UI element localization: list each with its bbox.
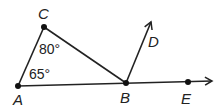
angle-a-label: 65°: [29, 66, 50, 82]
point-c: [41, 24, 47, 30]
point-a: [15, 83, 21, 89]
angle-c-label: 80°: [39, 41, 60, 57]
label-b: B: [120, 89, 130, 106]
geometry-diagram: C A B D E 80° 65°: [0, 0, 224, 111]
label-c: C: [38, 5, 49, 22]
point-b: [123, 80, 129, 86]
label-d: D: [148, 33, 159, 50]
point-e: [185, 79, 191, 85]
label-a: A: [12, 91, 23, 108]
label-e: E: [181, 90, 192, 107]
ray-bd: [126, 22, 151, 83]
